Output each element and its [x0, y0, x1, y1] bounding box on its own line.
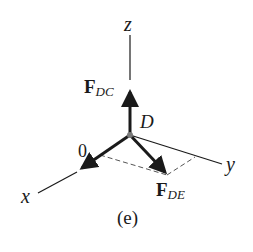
force-dc-symbol: F [84, 76, 96, 97]
force-de-symbol: F [156, 179, 168, 200]
point-d-icon [127, 132, 133, 138]
figure-caption: (e) [117, 208, 138, 227]
point-d-label: D [140, 112, 154, 131]
z-axis-label: z [124, 14, 132, 34]
dashed-component-line-2 [167, 157, 195, 175]
diagram-canvas: z y x D FDC FDE 0 (e) [0, 0, 253, 252]
y-axis-label: y [226, 154, 235, 174]
force-de-label: FDE [156, 180, 185, 199]
x-axis-line [38, 172, 77, 193]
zero-force-arrow [82, 135, 130, 168]
zero-force-label: 0 [78, 142, 87, 160]
force-dc-subscript: DC [96, 84, 114, 99]
x-axis-label: x [21, 186, 30, 206]
force-dc-label: FDC [84, 77, 114, 96]
force-de-subscript: DE [168, 187, 185, 202]
